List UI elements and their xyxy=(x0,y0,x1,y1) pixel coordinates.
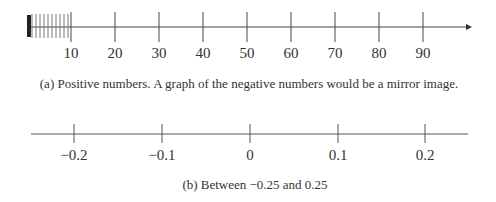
tick-label: 30 xyxy=(152,45,167,62)
tick-label: 20 xyxy=(108,45,123,62)
arrowhead-icon xyxy=(466,24,472,30)
tick-label: 70 xyxy=(328,45,343,62)
tick-label: 10 xyxy=(64,45,79,62)
caption-b: (b) Between −0.25 and 0.25 xyxy=(182,177,327,193)
tick-label: 50 xyxy=(240,45,255,62)
tick-label: 40 xyxy=(196,45,211,62)
tick-label: 0 xyxy=(246,147,254,164)
tick-label: 80 xyxy=(372,45,387,62)
number-line-diagram xyxy=(0,0,496,202)
dense-region-bar xyxy=(27,15,31,37)
tick-label: 0.1 xyxy=(329,147,348,164)
dense-ticks xyxy=(32,14,68,38)
tick-label: −0.2 xyxy=(60,147,87,164)
tick-label: 0.2 xyxy=(416,147,435,164)
tick-label: −0.1 xyxy=(148,147,175,164)
tick-label: 90 xyxy=(416,45,431,62)
tick-label: 60 xyxy=(284,45,299,62)
caption-a: (a) Positive numbers. A graph of the neg… xyxy=(40,76,458,92)
